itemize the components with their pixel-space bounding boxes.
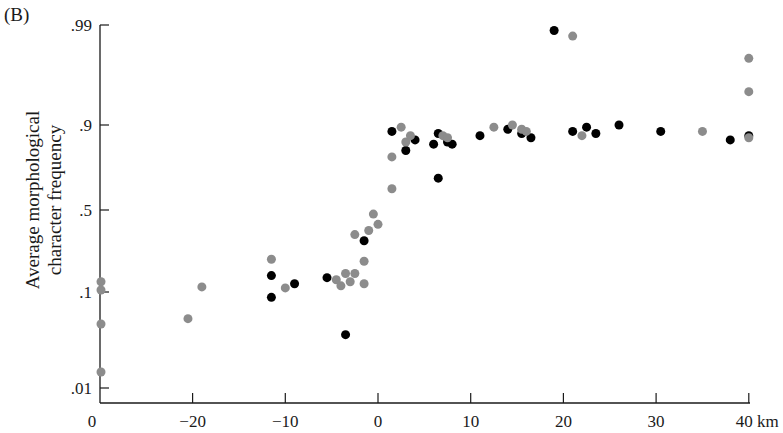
y-tick-label: .1 <box>79 283 92 302</box>
x-tick-label: −10 <box>272 412 299 431</box>
data-point-black <box>323 273 332 282</box>
data-point-gray <box>341 269 350 278</box>
data-point-gray <box>387 152 396 161</box>
data-point-black <box>582 123 591 132</box>
y-tick-label: .5 <box>79 201 92 220</box>
data-point-gray <box>360 257 369 266</box>
data-point-black <box>475 131 484 140</box>
data-point-gray <box>267 255 276 264</box>
data-point-gray <box>336 281 345 290</box>
scatter-plot: .99.9.5.1.010−20−10010203040 km <box>0 0 783 433</box>
data-point-black <box>726 135 735 144</box>
y-tick-label: .99 <box>71 16 92 35</box>
axes: .99.9.5.1.010−20−10010203040 km <box>71 16 779 431</box>
data-point-black <box>267 271 276 280</box>
data-points <box>97 26 754 376</box>
data-point-black <box>615 121 624 130</box>
data-point-gray <box>522 127 531 136</box>
data-point-gray <box>374 220 383 229</box>
data-point-gray <box>489 123 498 132</box>
data-point-gray <box>97 368 106 377</box>
x-tick-label: 0 <box>374 412 383 431</box>
data-point-black <box>290 279 299 288</box>
data-point-black <box>656 127 665 136</box>
data-point-gray <box>577 131 586 140</box>
data-point-gray <box>364 226 373 235</box>
data-point-gray <box>350 230 359 239</box>
data-point-gray <box>744 54 753 63</box>
data-point-gray <box>97 285 106 294</box>
x-tick-label: 0 <box>88 412 97 431</box>
data-point-gray <box>360 279 369 288</box>
x-tick-label: 20 <box>555 412 572 431</box>
data-point-gray <box>197 282 206 291</box>
data-point-gray <box>744 133 753 142</box>
data-point-black <box>550 26 559 35</box>
data-point-gray <box>369 210 378 219</box>
data-point-black <box>360 236 369 245</box>
data-point-gray <box>346 277 355 286</box>
data-point-black <box>401 146 410 155</box>
data-point-gray <box>568 32 577 41</box>
y-tick-label: .01 <box>71 379 92 398</box>
data-point-gray <box>443 133 452 142</box>
x-tick-label: 40 km <box>736 412 779 431</box>
data-point-gray <box>397 123 406 132</box>
y-tick-label: .9 <box>79 116 92 135</box>
data-point-gray <box>97 320 106 329</box>
data-point-black <box>568 127 577 136</box>
x-tick-label: 10 <box>462 412 479 431</box>
x-tick-label: −20 <box>179 412 206 431</box>
data-point-gray <box>698 127 707 136</box>
data-point-black <box>267 293 276 302</box>
data-point-gray <box>350 269 359 278</box>
data-point-black <box>429 140 438 149</box>
x-tick-label: 30 <box>648 412 665 431</box>
data-point-black <box>341 330 350 339</box>
data-point-gray <box>97 277 106 286</box>
data-point-black <box>434 174 443 183</box>
data-point-gray <box>387 184 396 193</box>
data-point-gray <box>508 121 517 130</box>
data-point-gray <box>744 87 753 96</box>
data-point-gray <box>406 131 415 140</box>
data-point-gray <box>281 283 290 292</box>
data-point-black <box>591 129 600 138</box>
data-point-gray <box>183 314 192 323</box>
data-point-black <box>387 127 396 136</box>
